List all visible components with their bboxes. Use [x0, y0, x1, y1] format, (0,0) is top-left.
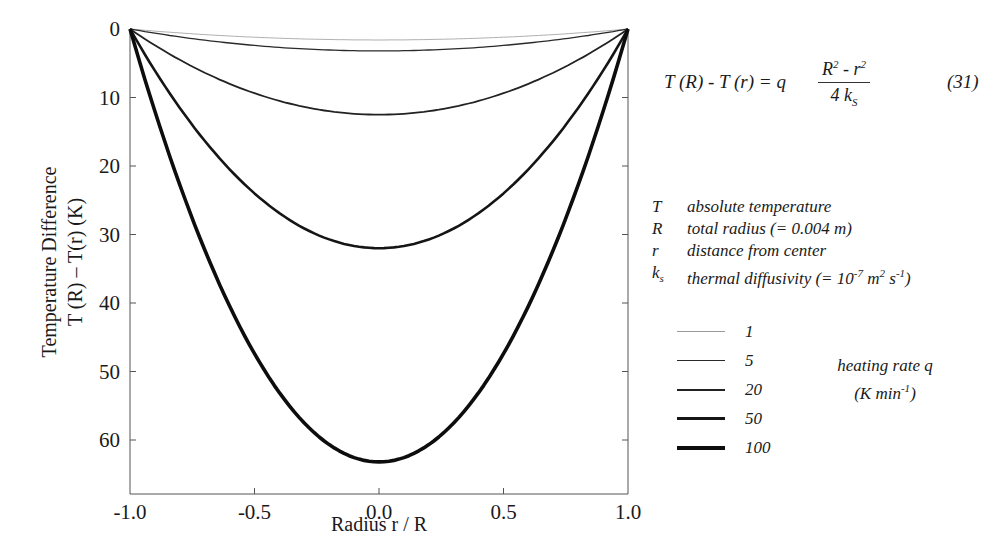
x-axis-title: Radius r / R: [331, 513, 428, 535]
symbol: R: [652, 218, 687, 240]
legend-line-swatch: [677, 417, 725, 420]
symbol-definitions: Tabsolute temperatureRtotal radius (= 0.…: [652, 196, 911, 290]
symbol-row: ksthermal diffusivity (= 10-7 m2 s-1): [652, 262, 911, 290]
legend: 152050100: [677, 317, 785, 462]
y-axis-title: Temperature Difference T (R) – T(r) (K): [38, 166, 87, 357]
equation-numerator: R2 - r2: [818, 58, 870, 83]
y-tick-label: 40: [99, 291, 120, 315]
curve-q-100: [130, 29, 628, 462]
y-tick-label: 30: [99, 223, 120, 247]
symbol-row: rdistance from center: [652, 240, 911, 262]
legend-title-line1: heating rate q: [820, 355, 950, 377]
legend-label: 5: [745, 351, 785, 371]
symbol-row: Tabsolute temperature: [652, 196, 911, 218]
y-tick-label: 50: [99, 360, 120, 384]
equation-lhs: T (R) - T (r) = q: [664, 71, 786, 93]
legend-entry-100: 100: [677, 433, 785, 462]
legend-label: 1: [745, 322, 785, 342]
symbol: T: [652, 196, 687, 218]
y-tick-label: 10: [99, 86, 120, 110]
x-tick-label: -1.0: [113, 500, 146, 524]
symbol-row: Rtotal radius (= 0.004 m): [652, 218, 911, 240]
legend-title: heating rate q (K min-1): [820, 355, 950, 405]
legend-entry-5: 5: [677, 346, 785, 375]
y-tick-label: 20: [99, 154, 120, 178]
data-curves: [130, 29, 628, 462]
symbol: ks: [652, 262, 687, 290]
legend-label: 50: [745, 409, 785, 429]
equation-fraction: R2 - r2 4 kS: [818, 58, 870, 108]
x-tick-label: 1.0: [615, 500, 641, 524]
symbol-description: absolute temperature: [687, 196, 831, 218]
y-tick-label: 0: [110, 17, 121, 41]
legend-line-swatch: [677, 331, 725, 332]
symbol-description: distance from center: [687, 240, 826, 262]
curve-q-1: [130, 29, 628, 40]
legend-entry-50: 50: [677, 404, 785, 433]
y-axis-title-line1: Temperature Difference: [38, 166, 61, 357]
y-tick-label: 60: [99, 428, 120, 452]
curve-q-50: [130, 29, 628, 248]
legend-line-swatch: [677, 360, 725, 361]
legend-line-swatch: [677, 389, 725, 391]
curve-q-20: [130, 29, 628, 115]
x-tick-label: 0.5: [490, 500, 516, 524]
legend-entry-1: 1: [677, 317, 785, 346]
y-axis-title-line2: T (R) – T(r) (K): [64, 198, 87, 326]
symbol: r: [652, 240, 687, 262]
plot-frame: [130, 29, 628, 494]
symbol-description: total radius (= 0.004 m): [687, 218, 852, 240]
y-axis-ticks: 0102030405060: [99, 17, 628, 452]
legend-entry-20: 20: [677, 375, 785, 404]
x-tick-label: -0.5: [238, 500, 271, 524]
legend-label: 20: [745, 380, 785, 400]
symbol-description: thermal diffusivity (= 10-7 m2 s-1): [687, 262, 911, 290]
legend-label: 100: [745, 438, 785, 458]
equation-denominator: 4 kS: [818, 83, 870, 108]
legend-line-swatch: [677, 446, 725, 450]
legend-title-line2: (K min-1): [820, 377, 950, 405]
equation-number: (31): [947, 71, 979, 93]
